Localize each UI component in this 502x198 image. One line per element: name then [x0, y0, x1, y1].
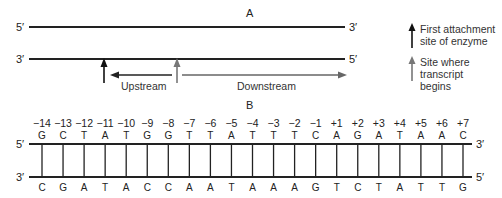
- bottom-strand-base: A: [202, 183, 218, 193]
- top-strand-base: T: [392, 131, 408, 141]
- panel-b-title: B: [246, 100, 253, 111]
- bottom-strand-base: C: [350, 183, 366, 193]
- top-strand-base: T: [76, 131, 92, 141]
- top-strand-base: A: [371, 131, 387, 141]
- panel-b-bottom-strand-3prime-label: 3′: [16, 172, 24, 183]
- position-number: −13: [52, 118, 74, 129]
- downstream-label: Downstream: [237, 80, 296, 92]
- bottom-strand-base: C: [139, 183, 155, 193]
- bottom-strand-base: T: [434, 183, 450, 193]
- position-number: +2: [347, 118, 369, 129]
- bottom-strand-base: A: [266, 183, 282, 193]
- legend-text-line: begins: [420, 80, 502, 92]
- top-strand-base: A: [223, 131, 239, 141]
- top-strand-base: T: [202, 131, 218, 141]
- top-strand-base: A: [97, 131, 113, 141]
- position-number: −5: [220, 118, 242, 129]
- enzyme-attachment-arrow-icon: [101, 58, 108, 83]
- legend-gray-arrow-icon: [409, 56, 416, 81]
- bottom-strand-base: T: [97, 183, 113, 193]
- top-strand-base: G: [34, 131, 50, 141]
- top-strand-base: T: [266, 131, 282, 141]
- top-strand-base: C: [308, 131, 324, 141]
- bottom-strand-base: A: [245, 183, 261, 193]
- top-strand-base: T: [118, 131, 134, 141]
- panel-b-top-strand-5prime-label: 5′: [16, 139, 24, 150]
- top-strand-base: A: [329, 131, 345, 141]
- position-number: +4: [389, 118, 411, 129]
- top-strand-base: G: [350, 131, 366, 141]
- position-number: −9: [136, 118, 158, 129]
- position-number: −12: [73, 118, 95, 129]
- panel-b-top-strand-3prime-label: 3′: [476, 139, 484, 150]
- position-number: +3: [368, 118, 390, 129]
- position-number: −14: [31, 118, 53, 129]
- bottom-strand-base: T: [329, 183, 345, 193]
- upstream-arrow-icon: [110, 72, 172, 79]
- bottom-strand-base: T: [413, 183, 429, 193]
- top-strand-base: C: [55, 131, 71, 141]
- position-number: −10: [115, 118, 137, 129]
- position-number: −3: [263, 118, 285, 129]
- legend-text-line: Site where transcript: [420, 56, 502, 80]
- position-number: −2: [284, 118, 306, 129]
- bottom-strand-base: A: [76, 183, 92, 193]
- top-strand-base: T: [245, 131, 261, 141]
- legend-text-line: First attachment: [420, 23, 495, 35]
- legend-text-line: site of enzyme: [420, 35, 495, 47]
- top-strand-base: A: [434, 131, 450, 141]
- bottom-strand-base: G: [455, 183, 471, 193]
- bottom-strand-base: G: [308, 183, 324, 193]
- position-number: −1: [305, 118, 327, 129]
- position-number: +7: [452, 118, 474, 129]
- bottom-strand-base: A: [287, 183, 303, 193]
- position-number: −11: [94, 118, 116, 129]
- position-number: −6: [199, 118, 221, 129]
- bottom-strand-base: C: [160, 183, 176, 193]
- bottom-strand-base: A: [392, 183, 408, 193]
- legend-item-transcript-start: Site where transcript begins: [420, 56, 502, 92]
- position-number: +1: [326, 118, 348, 129]
- bottom-strand-base: G: [55, 183, 71, 193]
- position-number: −4: [242, 118, 264, 129]
- downstream-arrow-icon: [182, 72, 347, 79]
- position-number: +6: [431, 118, 453, 129]
- top-strand-base: A: [413, 131, 429, 141]
- transcript-start-arrow-icon: [174, 58, 181, 83]
- legend-item-enzyme-attachment: First attachment site of enzyme: [420, 23, 495, 47]
- position-number: −8: [157, 118, 179, 129]
- base-pair-rungs: [42, 144, 463, 177]
- position-number: −7: [178, 118, 200, 129]
- top-strand-base: G: [139, 131, 155, 141]
- upstream-label: Upstream: [121, 80, 167, 92]
- bottom-strand-base: A: [181, 183, 197, 193]
- legend-black-arrow-icon: [409, 23, 416, 48]
- top-strand-base: C: [455, 131, 471, 141]
- top-strand-base: T: [181, 131, 197, 141]
- bottom-strand-base: C: [34, 183, 50, 193]
- bottom-strand-base: A: [118, 183, 134, 193]
- top-strand-base: G: [160, 131, 176, 141]
- position-number: +5: [410, 118, 432, 129]
- top-strand-base: T: [287, 131, 303, 141]
- panel-b-bottom-strand-5prime-label: 5′: [476, 172, 484, 183]
- bottom-strand-base: T: [371, 183, 387, 193]
- bottom-strand-base: T: [223, 183, 239, 193]
